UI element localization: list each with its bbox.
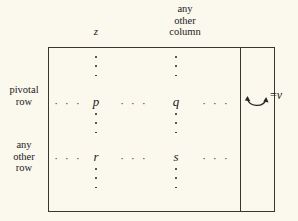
rhs-value-annotation: =v — [270, 89, 282, 102]
vertical-ellipsis-other-col-bottom — [171, 168, 181, 188]
column-header-other: any other column — [150, 3, 220, 38]
horizontal-ellipsis-other-row-right: · · · — [202, 153, 230, 164]
rhs-variable: v — [277, 88, 282, 102]
column-header-pivot: z — [78, 26, 114, 38]
horizontal-ellipsis-other-row-middle: · · · — [120, 153, 148, 164]
horizontal-ellipsis-pivotal-row-right: · · · — [202, 98, 230, 109]
cell-r: r — [86, 150, 106, 163]
curved-double-arrow-icon — [243, 92, 271, 112]
row-label-other: any other row — [2, 139, 46, 174]
vertical-ellipsis-pivot-col-top — [91, 56, 101, 76]
cell-s: s — [166, 150, 186, 163]
horizontal-ellipsis-pivotal-row-middle: · · · — [120, 98, 148, 109]
augmented-column-divider — [240, 47, 241, 212]
horizontal-ellipsis-pivotal-row-left: · · · — [54, 98, 82, 109]
equals-sign: = — [270, 88, 277, 102]
matrix-pivot-figure: z any other column pivotal row any other… — [0, 0, 298, 221]
row-label-pivotal: pivotal row — [2, 84, 46, 107]
vertical-ellipsis-other-col-middle — [171, 113, 181, 133]
horizontal-ellipsis-other-row-left: · · · — [54, 153, 82, 164]
vertical-ellipsis-pivot-col-bottom — [91, 168, 101, 188]
cell-q: q — [166, 95, 186, 108]
vertical-ellipsis-pivot-col-middle — [91, 113, 101, 133]
cell-p: p — [86, 95, 106, 108]
vertical-ellipsis-other-col-top — [171, 56, 181, 76]
